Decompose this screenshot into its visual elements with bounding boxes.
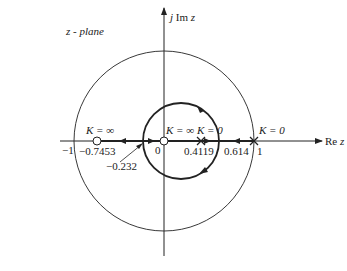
label-origin: 0 [155,144,161,156]
arrow-pole-to-breakaway-icon [204,138,211,144]
root-locus-diagram: z - plane j Im z Re z −1 1 0 K = ∞ −0.74… [0,0,347,271]
zero-marker-neg [93,137,101,145]
real-axis-label: Re z [325,135,345,147]
value-pole-0.4119: 0.4119 [184,145,214,157]
k-label-zero-origin: K = ∞ [165,124,194,136]
k-label-pole-1: K = 0 [258,124,285,136]
imag-axis-label: j Im z [168,11,196,23]
label-minus-one: −1 [62,144,74,156]
value-zero-neg: −0.7453 [79,145,116,157]
zero-marker-origin [160,137,168,145]
value-breakaway-pos: 0.614 [224,145,249,157]
k-label-pole-0.4119: K = 0 [196,124,223,136]
label-one: 1 [257,145,263,157]
value-breakaway-neg: −0.232 [106,160,137,172]
arrow-left-segment-icon [119,138,126,144]
arrow-origin-to-zero-icon [148,138,155,144]
k-label-zero-neg: K = ∞ [85,124,114,136]
arrow-pole1-to-breakaway-icon [233,138,240,144]
plane-title: z - plane [65,25,104,37]
